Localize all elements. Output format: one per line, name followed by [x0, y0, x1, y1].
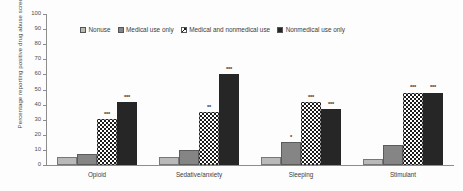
y-axis-tick-label: 0	[20, 162, 41, 168]
bar-rect	[281, 142, 301, 165]
bar-rect	[403, 93, 423, 165]
bar-rect	[179, 150, 199, 165]
plot-area: 1009080706050403020100 ******Opioid*****…	[46, 14, 454, 166]
x-axis-label-sedative-anxiety: Sedative/anxiety	[144, 171, 254, 178]
y-axis-tick-label: 60	[20, 71, 41, 77]
significance-marker: ***	[301, 95, 321, 101]
y-axis-tick-label: 80	[20, 41, 41, 47]
y-axis-tick-label: 70	[20, 56, 41, 62]
significance-marker: ***	[117, 95, 137, 101]
bar-rect	[321, 109, 341, 165]
y-axis-tick-mark	[43, 165, 46, 166]
significance-marker: ***	[403, 85, 423, 91]
significance-marker: ***	[423, 85, 443, 91]
bar-stimulant-nonmedical-use-only[interactable]: ***	[423, 14, 443, 165]
bar-sedative-anxiety-medical-and-nonmedical-use[interactable]: **	[199, 14, 219, 165]
bar-sedative-anxiety-nonmedical-use-only[interactable]: ***	[219, 14, 239, 165]
bar-opioid-nonuse[interactable]	[57, 14, 77, 165]
bar-stimulant-medical-and-nonmedical-use[interactable]: ***	[403, 14, 423, 165]
y-axis-tick-label: 90	[20, 26, 41, 32]
x-axis-label-sleeping: Sleeping	[246, 171, 356, 178]
bar-rect	[383, 145, 403, 165]
bar-opioid-medical-use-only[interactable]	[77, 14, 97, 165]
bar-rect	[159, 157, 179, 165]
bar-group-stimulant: ******Stimulant	[352, 14, 454, 165]
bar-rect	[423, 93, 443, 165]
bar-opioid-medical-and-nonmedical-use[interactable]: ***	[97, 14, 117, 165]
significance-marker: ***	[97, 112, 117, 118]
bar-sedative-anxiety-nonuse[interactable]	[159, 14, 179, 165]
bar-rect	[77, 154, 97, 165]
bar-group-opioid: ******Opioid	[46, 14, 148, 165]
bar-stimulant-nonuse[interactable]	[363, 14, 383, 165]
bar-group-sedative-anxiety: *****Sedative/anxiety	[148, 14, 250, 165]
significance-marker: **	[199, 105, 219, 111]
x-axis-line	[46, 165, 454, 166]
y-axis-tick-label: 20	[20, 132, 41, 138]
bar-stimulant-medical-use-only[interactable]	[383, 14, 403, 165]
bar-sleeping-nonuse[interactable]	[261, 14, 281, 165]
bar-rect	[97, 119, 117, 165]
bar-rect	[117, 102, 137, 165]
x-axis-label-opioid: Opioid	[42, 171, 152, 178]
y-axis-tick-label: 10	[20, 147, 41, 153]
y-axis-tick-label: 30	[20, 117, 41, 123]
bar-sleeping-medical-and-nonmedical-use[interactable]: ***	[301, 14, 321, 165]
y-axis-tick-label: 100	[20, 11, 41, 17]
bar-opioid-nonmedical-use-only[interactable]: ***	[117, 14, 137, 165]
bar-rect	[301, 102, 321, 165]
bar-rect	[261, 157, 281, 165]
bar-rect	[219, 74, 239, 165]
y-axis-tick-label: 50	[20, 87, 41, 93]
significance-marker: ***	[219, 67, 239, 73]
y-axis-tick-label: 40	[20, 102, 41, 108]
x-axis-label-stimulant: Stimulant	[348, 171, 458, 178]
bar-chart-figure: Percentage reporting positive drug abuse…	[0, 0, 463, 191]
significance-marker: *	[281, 135, 301, 141]
bar-sleeping-medical-use-only[interactable]: *	[281, 14, 301, 165]
bar-rect	[199, 112, 219, 165]
bar-group-sleeping: *******Sleeping	[250, 14, 352, 165]
bar-sleeping-nonmedical-use-only[interactable]: ***	[321, 14, 341, 165]
significance-marker: ***	[321, 102, 341, 108]
bar-sedative-anxiety-medical-use-only[interactable]	[179, 14, 199, 165]
bar-rect	[363, 159, 383, 165]
bar-rect	[57, 157, 77, 165]
